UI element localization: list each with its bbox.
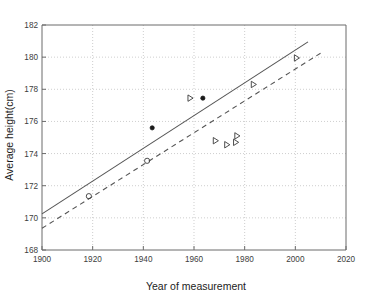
y-tick-label: 170 [24,214,38,223]
trend-line-dashed [42,53,321,228]
y-tick-label: 182 [24,21,38,30]
y-axis-title: Average height(cm) [3,89,15,180]
y-tick-label: 180 [24,53,38,62]
y-tick-label: 174 [24,150,38,159]
chart-figure: 1681701721741761781801821900192019401960… [0,0,367,297]
x-tick-label: 1980 [236,255,255,264]
y-tick-label: 178 [24,85,38,94]
data-point-triangle [235,133,240,139]
data-point-triangle [294,55,299,61]
data-point-filled-dot [150,126,154,130]
x-tick-label: 1940 [134,255,153,264]
data-point-triangle [234,139,239,145]
data-point-triangle [251,81,256,87]
y-tick-label: 168 [24,246,38,255]
data-series [42,42,321,228]
x-tick-label: 1900 [33,255,52,264]
scatter-chart: 1681701721741761781801821900192019401960… [0,0,367,297]
y-tick-label: 176 [24,117,38,126]
y-tick-label: 172 [24,182,38,191]
gridlines [42,25,346,250]
x-axis-title: Year of measurement [146,280,246,292]
x-tick-label: 1960 [185,255,204,264]
data-point-filled-dot [201,96,205,100]
x-tick-label: 2000 [286,255,305,264]
x-tick-label: 1920 [84,255,103,264]
data-point-open-circle [86,194,91,199]
trend-line-solid [42,42,308,214]
data-point-triangle [225,142,230,148]
data-point-triangle [188,95,193,101]
x-tick-label: 2020 [337,255,356,264]
data-point-triangle [213,138,218,144]
